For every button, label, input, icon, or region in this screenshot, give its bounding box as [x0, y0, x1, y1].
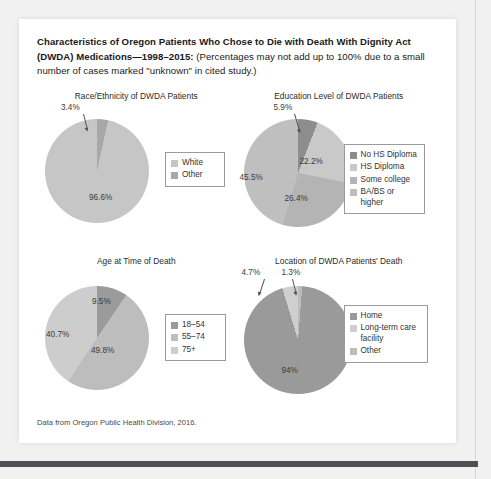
slice-label-18-54: 9.5% [92, 297, 111, 306]
slice-label-home: 94% [282, 366, 298, 375]
legend-label-other: Other [182, 170, 202, 181]
legend-age-at-death: 18–54 55–74 75+ [165, 314, 226, 362]
legend-label-ba-bs: BA/BS or higher [361, 187, 395, 208]
pie-race-ethnicity [45, 119, 149, 223]
chart-title-education-level: Education Level of DWDA Patients [240, 90, 439, 103]
legend-swatch-18-54 [171, 322, 178, 329]
legend-item-55-74[interactable]: 55–74 [171, 332, 219, 343]
legend-item-white[interactable]: White [171, 158, 218, 169]
bottom-rule [0, 461, 478, 467]
legend-swatch-ba-bs [350, 189, 357, 196]
chart-body-education-level: 22.2% 26.4% 45.5% 5.9% No HS Diploma HS … [240, 103, 439, 245]
legend-label-no-hs-diploma: No HS Diploma [361, 150, 417, 161]
legend-item-18-54[interactable]: 18–54 [171, 320, 219, 331]
legend-item-some-college[interactable]: Some college [350, 175, 418, 186]
chart-body-location-of-death: 94% 4.7% 1.3% Home Long-term care facili… [240, 268, 439, 410]
chart-age-at-death: Age at Time of Death 9.5% 49.8% 40.7% 18… [37, 255, 236, 410]
chart-title-race-ethnicity: Race/Ethnicity of DWDA Patients [37, 90, 236, 103]
legend-label-55-74: 55–74 [182, 332, 205, 343]
legend-swatch-75-plus [171, 347, 178, 354]
legend-swatch-home [350, 313, 357, 320]
legend-label-18-54: 18–54 [182, 320, 205, 331]
page-title: Characteristics of Oregon Patients Who C… [37, 35, 438, 79]
legend-label-some-college: Some college [361, 175, 411, 186]
slice-label-ba-bs: 45.5% [240, 173, 263, 182]
legend-swatch-hs-diploma [350, 164, 357, 171]
pie-wrap-location-of-death [244, 286, 352, 394]
chart-body-race-ethnicity: 96.6% 3.4% White Other [37, 103, 236, 245]
slice-label-55-74: 49.8% [91, 346, 114, 355]
legend-item-ba-bs[interactable]: BA/BS or higher [350, 187, 418, 208]
legend-item-long-term-care[interactable]: Long-term care facility [350, 323, 421, 344]
legend-swatch-55-74 [171, 334, 178, 341]
legend-swatch-long-term-care [350, 325, 357, 332]
chart-title-age-at-death: Age at Time of Death [37, 255, 236, 268]
legend-swatch-no-hs-diploma [350, 152, 357, 159]
pie-location-of-death [244, 286, 352, 394]
page-edge-rule [475, 0, 476, 479]
legend-race-ethnicity: White Other [165, 152, 225, 187]
legend-item-home[interactable]: Home [350, 311, 421, 322]
legend-location-of-death: Home Long-term care facility Other [344, 305, 428, 363]
legend-label-other-location: Other [361, 346, 381, 357]
chart-education-level: Education Level of DWDA Patients 22.2% 2… [240, 90, 439, 245]
legend-swatch-some-college [350, 177, 357, 184]
legend-item-hs-diploma[interactable]: HS Diploma [350, 162, 418, 173]
legend-label-home: Home [361, 311, 383, 322]
charts-grid: Race/Ethnicity of DWDA Patients 96.6% 3.… [37, 90, 438, 410]
slice-label-75-plus: 40.7% [46, 330, 69, 339]
pie-wrap-race-ethnicity [45, 119, 149, 223]
legend-label-75-plus: 75+ [182, 345, 196, 356]
legend-label-hs-diploma: HS Diploma [361, 162, 405, 173]
chart-title-location-of-death: Location of DWDA Patients' Death [240, 255, 439, 268]
chart-race-ethnicity: Race/Ethnicity of DWDA Patients 96.6% 3.… [37, 90, 236, 245]
callout-other: 3.4% [61, 103, 80, 112]
chart-body-age-at-death: 9.5% 49.8% 40.7% 18–54 55–74 [37, 268, 236, 410]
callout-no-hs-diploma: 5.9% [274, 103, 293, 112]
legend-label-long-term-care: Long-term care facility [361, 323, 417, 344]
legend-item-other[interactable]: Other [171, 170, 218, 181]
legend-swatch-other-location [350, 348, 357, 355]
legend-item-75-plus[interactable]: 75+ [171, 345, 219, 356]
slice-label-hs-diploma: 22.2% [300, 157, 323, 166]
legend-swatch-white [171, 160, 178, 167]
slice-label-white: 96.6% [89, 193, 112, 202]
slice-label-some-college: 26.4% [285, 194, 308, 203]
figure-card: Characteristics of Oregon Patients Who C… [19, 19, 456, 443]
legend-item-no-hs-diploma[interactable]: No HS Diploma [350, 150, 418, 161]
callout-other-location: 1.3% [282, 268, 301, 277]
legend-swatch-other [171, 172, 178, 179]
source-note: Data from Oregon Public Health Division,… [37, 418, 197, 427]
chart-location-of-death: Location of DWDA Patients' Death 94% 4.7… [240, 255, 439, 410]
callout-long-term-care: 4.7% [242, 268, 261, 277]
legend-label-white: White [182, 158, 203, 169]
legend-item-other-location[interactable]: Other [350, 346, 421, 357]
figure-card-inner: Characteristics of Oregon Patients Who C… [19, 19, 456, 410]
legend-education-level: No HS Diploma HS Diploma Some college [344, 144, 425, 215]
